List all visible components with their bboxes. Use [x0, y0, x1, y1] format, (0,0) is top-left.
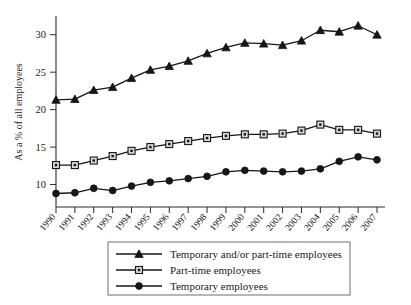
x-tick-label: 1994: [113, 212, 133, 233]
x-axis-ticks: 1990199119921993199419951996199719981999…: [38, 207, 379, 233]
circle-marker: [355, 153, 362, 160]
series-layer: [52, 22, 381, 197]
x-tick-label: 1998: [189, 212, 209, 233]
square-marker: [128, 147, 135, 154]
circle-marker: [128, 183, 135, 190]
line-chart: As a % of all employees 1015202530 19901…: [0, 0, 411, 305]
chart-legend: Temporary and/or part-time employeesPart…: [108, 242, 350, 295]
circle-marker: [204, 173, 211, 180]
triangle-marker: [108, 83, 116, 91]
x-tick-label: 2000: [226, 212, 246, 233]
series-1: [52, 22, 381, 104]
x-tick-label: 1995: [132, 212, 152, 233]
x-tick-label: 1990: [38, 212, 58, 233]
y-tick-label: 30: [36, 29, 47, 40]
y-axis-title-group: As a % of all employees: [13, 63, 24, 161]
square-marker: [109, 153, 116, 160]
square-marker: [90, 157, 97, 164]
square-marker: [136, 267, 143, 274]
x-tick-label: 2003: [283, 212, 303, 233]
square-marker: [71, 162, 78, 169]
circle-marker: [166, 177, 173, 184]
circle-marker: [147, 179, 154, 186]
series-2: [53, 121, 381, 168]
circle-marker: [317, 165, 324, 172]
square-marker: [374, 130, 381, 137]
square-marker: [241, 131, 248, 138]
circle-marker: [223, 168, 230, 175]
circle-marker: [298, 168, 305, 175]
x-tick-label: 1999: [208, 212, 228, 233]
circle-marker: [109, 187, 116, 194]
series-line: [56, 157, 377, 194]
y-axis-title: As a % of all employees: [13, 63, 24, 161]
square-marker: [204, 135, 211, 142]
triangle-marker: [184, 57, 192, 65]
circle-marker: [53, 190, 60, 197]
square-marker: [147, 144, 154, 151]
x-tick-label: 2006: [340, 212, 360, 233]
chart-container: As a % of all employees 1015202530 19901…: [0, 0, 411, 305]
legend-label: Part-time employees: [170, 264, 261, 276]
square-marker: [185, 138, 192, 145]
circle-marker: [336, 158, 343, 165]
triangle-marker: [354, 22, 362, 30]
triangle-marker: [373, 31, 381, 39]
circle-marker: [374, 156, 381, 163]
square-marker: [166, 141, 173, 148]
square-marker: [260, 131, 267, 138]
circle-marker: [185, 175, 192, 182]
circle-marker: [136, 283, 143, 290]
circle-marker: [260, 168, 267, 175]
x-tick-label: 1996: [151, 212, 171, 233]
square-marker: [317, 121, 324, 128]
x-tick-label: 1991: [57, 212, 77, 233]
square-marker: [298, 127, 305, 134]
circle-marker: [241, 167, 248, 174]
x-tick-label: 2002: [264, 212, 284, 233]
x-tick-label: 1992: [75, 212, 95, 233]
x-tick-label: 1993: [94, 212, 114, 233]
triangle-marker: [127, 74, 135, 82]
square-marker: [53, 162, 60, 169]
circle-marker: [90, 185, 97, 192]
y-tick-label: 25: [36, 67, 47, 78]
square-marker: [336, 126, 343, 133]
x-tick-label: 2004: [302, 212, 322, 233]
y-tick-label: 10: [36, 179, 47, 190]
y-tick-label: 15: [36, 142, 47, 153]
square-marker: [355, 126, 362, 133]
x-tick-label: 2007: [359, 212, 379, 233]
legend-label: Temporary and/or part-time employees: [170, 248, 342, 260]
circle-marker: [279, 168, 286, 175]
y-tick-label: 20: [36, 104, 47, 115]
x-tick-label: 1997: [170, 212, 190, 233]
x-tick-label: 2001: [245, 212, 265, 233]
series-3: [53, 153, 381, 197]
legend-label: Temporary employees: [170, 280, 268, 292]
circle-marker: [71, 189, 78, 196]
series-line: [56, 26, 377, 100]
series-line: [56, 125, 377, 165]
triangle-marker: [297, 37, 305, 45]
x-tick-label: 2005: [321, 212, 341, 233]
square-marker: [279, 130, 286, 137]
square-marker: [222, 132, 229, 139]
